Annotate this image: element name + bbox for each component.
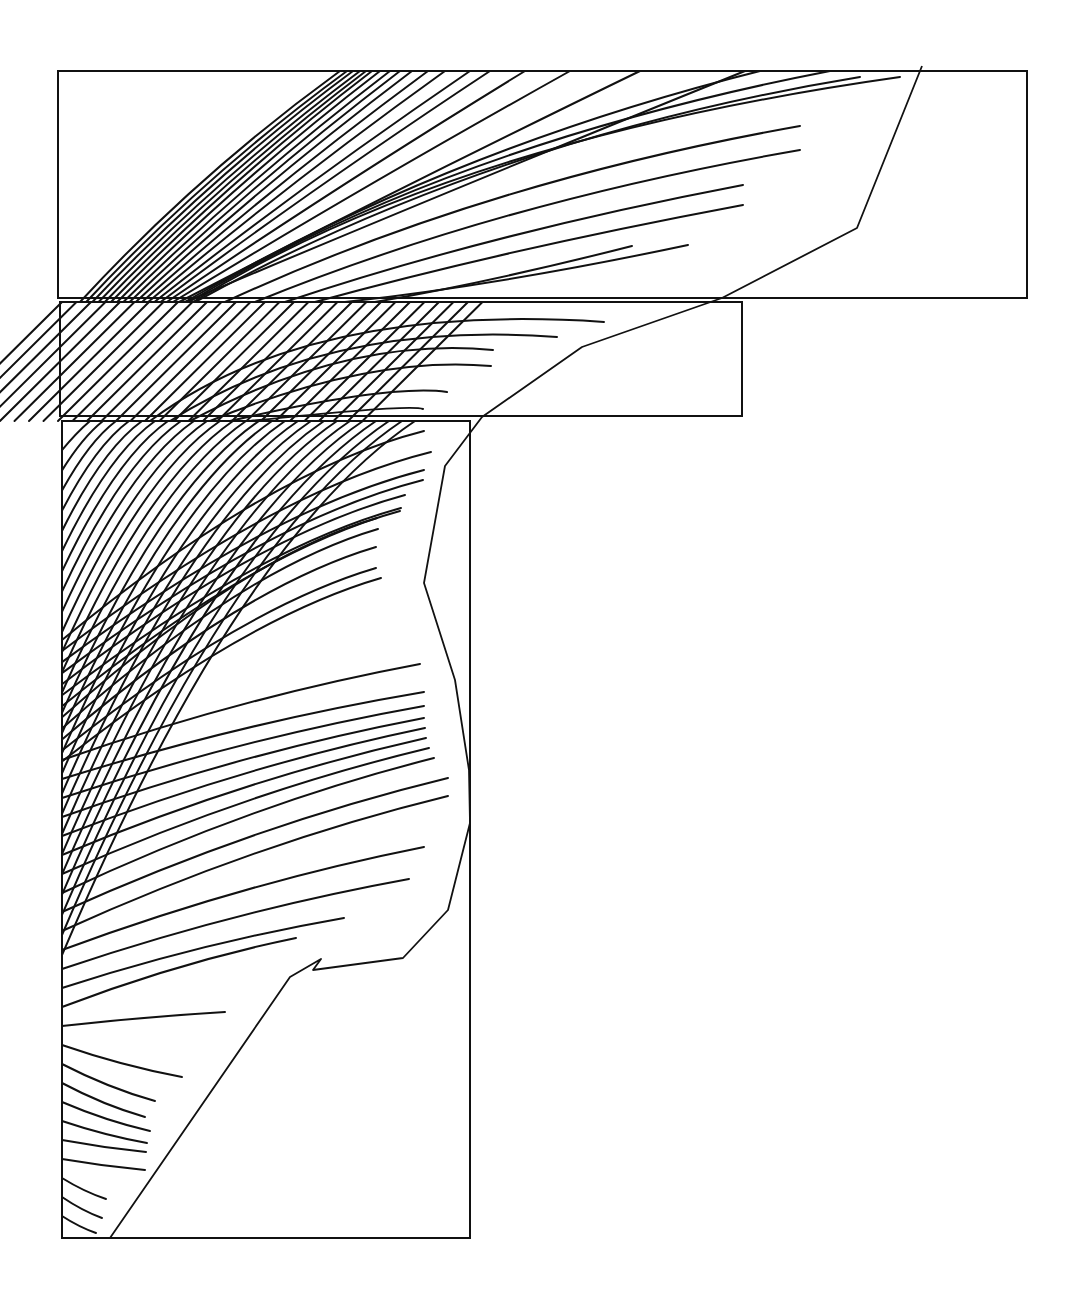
streamline <box>62 1159 145 1170</box>
streamline <box>102 302 222 421</box>
streamline <box>15 302 135 421</box>
diagram-canvas <box>0 0 1084 1302</box>
streamline <box>131 302 251 421</box>
streamline <box>0 302 77 421</box>
streamline <box>62 1140 146 1152</box>
figure-caption <box>0 1288 1084 1302</box>
streamline <box>62 1102 150 1131</box>
middle-block-frame <box>60 302 742 416</box>
streamline <box>44 302 164 421</box>
streamline <box>276 302 396 421</box>
streamline <box>142 71 428 302</box>
streamline <box>334 302 454 421</box>
streamline <box>62 918 344 988</box>
streamline <box>62 421 350 854</box>
streamline <box>319 302 439 421</box>
streamline <box>58 302 178 421</box>
streamline <box>87 302 207 421</box>
streamline <box>62 1216 96 1233</box>
streamline <box>62 847 424 950</box>
streamline <box>29 302 149 421</box>
streamline <box>247 302 367 421</box>
streamline <box>62 796 448 931</box>
streamline <box>62 1012 225 1026</box>
streamline <box>285 185 743 302</box>
streamline <box>145 302 265 421</box>
streamline <box>261 302 381 421</box>
streamline <box>189 302 309 421</box>
streamline <box>62 758 434 893</box>
streamline <box>193 77 900 302</box>
streamline <box>290 302 410 421</box>
streamline <box>62 421 129 511</box>
streamline <box>111 71 372 302</box>
streamlines <box>0 71 900 1233</box>
streamline <box>315 205 743 302</box>
streamline <box>130 71 400 302</box>
streamline <box>232 302 352 421</box>
streamline <box>185 71 745 302</box>
streamline <box>348 302 468 421</box>
streamline <box>62 1121 147 1143</box>
streamline <box>62 1083 145 1117</box>
streamline <box>203 302 323 421</box>
streamline <box>62 421 90 450</box>
streamline <box>136 71 412 302</box>
streamline <box>62 421 376 895</box>
streamline <box>62 1178 106 1199</box>
streamline <box>62 1064 155 1101</box>
streamline <box>148 71 445 302</box>
streamline <box>174 302 294 421</box>
streamline <box>62 1197 102 1218</box>
streamline <box>305 302 425 421</box>
streamline <box>62 938 296 1007</box>
